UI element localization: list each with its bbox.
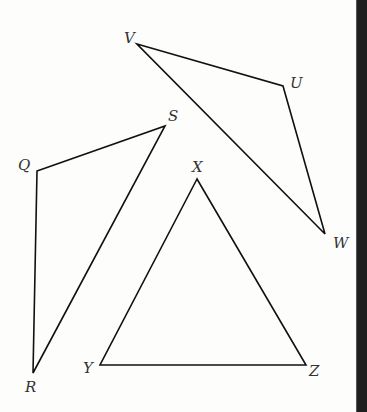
- vertex-label-w: W: [333, 234, 350, 252]
- triangle-vuw-outline: [137, 44, 325, 234]
- vertex-label-q: Q: [18, 156, 30, 174]
- triangle-xyz-outline: [100, 179, 306, 365]
- triangles-figure: VUWQSRXYZ: [0, 0, 367, 412]
- page-edge-bar: [356, 0, 367, 412]
- vertex-label-s: S: [168, 107, 178, 125]
- vertex-label-v: V: [124, 29, 137, 47]
- vertex-label-x: X: [191, 158, 204, 176]
- vertex-label-y: Y: [83, 359, 95, 377]
- vertex-label-r: R: [24, 378, 36, 396]
- triangle-xyz: XYZ: [83, 158, 320, 380]
- triangle-qsr: QSR: [18, 107, 178, 396]
- diagram-canvas: VUWQSRXYZ: [0, 0, 367, 412]
- vertex-label-z: Z: [308, 362, 320, 380]
- vertex-label-u: U: [290, 74, 304, 92]
- triangle-qsr-outline: [33, 126, 165, 373]
